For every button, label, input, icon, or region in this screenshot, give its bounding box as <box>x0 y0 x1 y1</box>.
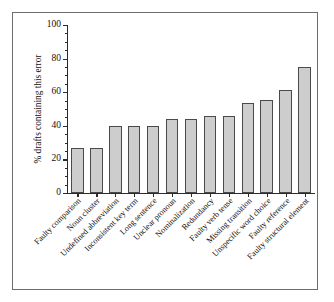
bar <box>90 148 102 193</box>
y-tick-label: 40 <box>52 121 62 131</box>
x-tick <box>77 193 78 197</box>
y-tick-minor <box>65 134 68 135</box>
bar <box>166 119 178 193</box>
bar <box>147 126 159 193</box>
y-tick-minor <box>65 84 68 85</box>
y-tick-label: 80 <box>52 54 62 64</box>
bar <box>223 116 235 193</box>
bar <box>128 126 140 193</box>
y-tick-minor <box>65 185 68 186</box>
x-tick <box>115 193 116 197</box>
y-tick-label: 60 <box>52 87 62 97</box>
plot-area: 020406080100 <box>68 25 314 193</box>
y-tick-label: 100 <box>47 20 61 30</box>
y-tick-minor <box>65 109 68 110</box>
y-tick-minor <box>65 168 68 169</box>
bar <box>242 103 254 193</box>
y-tick-minor <box>65 67 68 68</box>
y-tick-label: 20 <box>52 155 62 165</box>
y-tick-minor <box>65 42 68 43</box>
y-tick-label: 0 <box>56 188 61 198</box>
bar <box>279 90 291 193</box>
y-tick-major <box>63 59 68 60</box>
y-tick-minor <box>65 151 68 152</box>
y-tick-minor <box>65 50 68 51</box>
x-tick <box>96 193 97 197</box>
bar <box>260 100 272 193</box>
figure-canvas: % drafts containing this error 020406080… <box>0 0 334 302</box>
bar <box>204 116 216 193</box>
y-tick-minor <box>65 117 68 118</box>
y-tick-minor <box>65 176 68 177</box>
y-tick-major <box>63 92 68 93</box>
x-tick <box>134 193 135 197</box>
y-tick-minor <box>65 33 68 34</box>
y-axis-title: % drafts containing this error <box>31 25 45 193</box>
y-tick-minor <box>65 143 68 144</box>
bar <box>71 148 83 193</box>
y-tick-major <box>63 193 68 194</box>
bar <box>109 126 121 193</box>
y-tick-major <box>63 126 68 127</box>
y-tick-major <box>63 159 68 160</box>
y-tick-minor <box>65 101 68 102</box>
y-tick-minor <box>65 75 68 76</box>
bar <box>298 67 310 193</box>
bar <box>185 119 197 193</box>
y-tick-major <box>63 25 68 26</box>
